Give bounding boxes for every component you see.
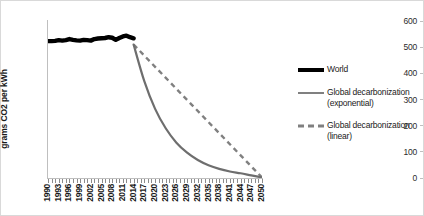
x-axis-tick-mark [233,179,234,183]
x-axis-tick-mark [144,179,145,183]
legend-item-world[interactable]: World [298,64,422,76]
x-axis-tick-mark [69,179,70,183]
x-axis-tick-mark [134,179,135,183]
chart-figure: grams CO2 per kWh 0100200300400500600 19… [0,0,424,216]
x-axis-tick-mark [187,179,188,183]
legend-line-swatch-world [298,64,324,76]
y-axis-tick-mark [420,47,423,48]
x-axis-tick-mark [205,179,206,183]
x-axis-tick-mark [84,179,85,183]
x-axis-tick-mark [201,179,202,183]
x-axis-tick-mark [176,179,177,183]
x-axis-tick-mark [102,179,103,183]
x-axis-tick-mark [155,179,156,183]
x-axis-tick-mark [162,179,163,183]
legend-line-swatch-linear [298,120,324,132]
x-axis-tick-mark [48,179,49,183]
y-axis-tick-label: 500 [403,42,420,52]
x-axis-tick-mark [251,179,252,183]
x-axis-tick-mark [141,179,142,183]
series-canvas [48,21,262,178]
x-axis-tick-mark [209,179,210,183]
x-axis-tick-mark [148,179,149,183]
chart-legend: World Global decarbonization (exponentia… [298,64,422,153]
y-axis-tick-mark [420,178,423,179]
x-axis-tick-mark [77,179,78,183]
x-axis-tick-mark [123,179,124,183]
x-axis-tick-label: 2032 [192,184,204,202]
y-axis-tick: 500 [376,42,423,52]
x-axis-tick-mark [184,179,185,183]
x-axis-tick-mark [105,179,106,183]
x-axis-tick-mark [87,179,88,183]
x-axis-tick-mark [119,179,120,183]
series-global-decarbonization-linear [134,45,262,178]
x-axis-tick-mark [59,179,60,183]
y-axis-tick-label: 600 [403,16,420,26]
x-axis-tick-mark [219,179,220,183]
y-axis-tick-label: 0 [412,173,420,183]
x-axis-tick-mark [194,179,195,183]
x-axis-tick-label: 2002 [85,184,97,202]
x-axis-tick-mark [62,179,63,183]
x-axis-tick-mark [198,179,199,183]
x-axis-tick-mark [116,179,117,183]
series-world [48,36,134,42]
x-axis-tick-mark [126,179,127,183]
x-axis-tick-mark [80,179,81,183]
y-axis-title-text: grams CO2 per kWh [0,1,9,216]
x-axis-tick-mark [55,179,56,183]
x-axis-tick-mark [159,179,160,183]
x-axis-tick-mark [258,179,259,183]
y-axis-tick-mark [420,21,423,22]
x-axis-tick-mark [248,179,249,183]
legend-label-world: World [327,64,348,75]
plot-area [48,21,262,178]
x-axis-tick-mark [180,179,181,183]
x-axis-tick-mark [255,179,256,183]
x-axis-tick-mark [173,179,174,183]
x-axis-tick-mark [66,179,67,183]
y-axis-tick: 600 [376,16,423,26]
x-axis-tick-mark [230,179,231,183]
y-axis-tick: 0 [376,173,423,183]
x-axis-tick-mark [226,179,227,183]
x-axis-tick-labels: 1990199319961999200220052008201120142017… [48,184,262,216]
x-axis-tick-mark [212,179,213,183]
x-axis-tick-mark [98,179,99,183]
y-axis-title: grams CO2 per kWh [0,0,11,1]
x-axis-tick-mark [241,179,242,183]
x-axis-tick-mark [166,179,167,183]
x-axis-tick-mark [91,179,92,183]
x-axis-tick-mark [223,179,224,183]
x-axis-tick-mark [94,179,95,183]
x-axis-tick-mark [244,179,245,183]
x-axis-tick-mark [109,179,110,183]
legend-item-global-decarbonization-exponential[interactable]: Global decarbonization (exponential) [298,87,422,109]
x-axis-tick-mark [151,179,152,183]
legend-item-global-decarbonization-linear[interactable]: Global decarbonization (linear) [298,120,422,142]
legend-label-exponential: Global decarbonization (exponential) [327,87,410,109]
x-axis-tick-mark [52,179,53,183]
legend-line-swatch-exponential [298,87,324,99]
x-axis-tick-mark [169,179,170,183]
legend-label-linear: Global decarbonization (linear) [327,120,410,142]
x-axis-tick-label: 2050 [256,184,268,202]
x-axis-tick-mark [237,179,238,183]
x-axis-tick-mark [130,179,131,183]
x-axis-tick-mark [191,179,192,183]
x-axis-tick-mark [137,179,138,183]
x-axis-tick-mark [262,179,263,183]
x-axis-tick-mark [112,179,113,183]
x-axis-tick-mark [216,179,217,183]
x-axis-tick-mark [73,179,74,183]
